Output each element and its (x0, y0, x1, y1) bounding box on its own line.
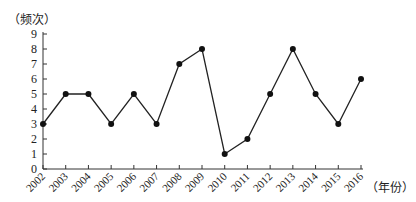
x-tick-label: 2015 (319, 170, 343, 194)
data-point-marker (358, 76, 364, 82)
x-tick-label: 2002 (23, 170, 47, 194)
x-tick-label: 2010 (205, 170, 229, 194)
data-point-marker (290, 46, 296, 52)
data-point-marker (108, 121, 114, 127)
data-point-marker (40, 121, 46, 127)
y-tick-label: 9 (31, 27, 37, 41)
y-tick-label: 3 (31, 117, 37, 131)
y-tick-label: 5 (31, 87, 37, 101)
y-tick-label: 8 (31, 42, 37, 56)
x-tick-label: 2003 (46, 170, 70, 194)
x-tick-label: 2007 (137, 170, 161, 194)
data-point-marker (131, 91, 137, 97)
y-tick-label: 2 (31, 132, 37, 146)
data-point-marker (244, 136, 250, 142)
y-tick-label: 4 (31, 102, 37, 116)
y-tick-label: 7 (31, 57, 37, 71)
data-point-marker (222, 151, 228, 157)
x-tick-label: 2014 (296, 170, 320, 194)
x-tick-label: 2004 (69, 170, 93, 194)
x-tick-label: 2009 (182, 170, 206, 194)
data-point-marker (335, 121, 341, 127)
data-point-marker (313, 91, 319, 97)
x-tick-label: 2012 (251, 170, 275, 194)
x-tick-label: 2006 (114, 170, 138, 194)
x-tick-label: 2011 (228, 170, 252, 194)
x-axis-label: （年份） (366, 178, 414, 196)
data-point-marker (199, 46, 205, 52)
x-tick-label: 2005 (92, 170, 116, 194)
x-tick-label: 2013 (273, 170, 297, 194)
y-tick-label: 6 (31, 72, 37, 86)
y-axis-label: （频次） (8, 10, 56, 28)
data-point-marker (85, 91, 91, 97)
data-point-marker (176, 61, 182, 67)
plot-area: 0123456789200220032004200520062007200820… (0, 0, 416, 202)
data-point-marker (154, 121, 160, 127)
x-tick-label: 2016 (341, 170, 365, 194)
data-point-marker (63, 91, 69, 97)
series-line (43, 49, 361, 154)
x-tick-label: 2008 (160, 170, 184, 194)
y-tick-label: 1 (31, 147, 37, 161)
data-point-marker (267, 91, 273, 97)
line-chart: （频次） （年份） 012345678920022003200420052006… (0, 0, 416, 202)
